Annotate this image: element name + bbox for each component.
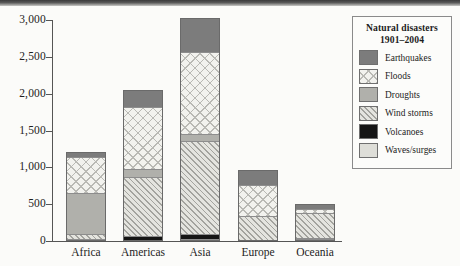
bar-segment-wind-storms bbox=[124, 177, 162, 236]
legend-entries: EarthquakesFloodsDroughtsWind stormsVolc… bbox=[359, 50, 445, 158]
legend-label: Droughts bbox=[385, 90, 420, 100]
legend-swatch-icon bbox=[359, 143, 378, 158]
bar-oceania[interactable] bbox=[295, 204, 335, 241]
y-axis-line bbox=[52, 20, 53, 242]
legend-label: Earthquakes bbox=[385, 53, 431, 63]
y-tick-label: 500 bbox=[28, 198, 46, 210]
y-tick bbox=[46, 241, 52, 242]
bar-segment-earthquakes bbox=[239, 171, 277, 185]
legend-label: Floods bbox=[385, 71, 411, 81]
y-tick-label: 1,500 bbox=[19, 125, 46, 137]
bar-segment-wind-storms bbox=[239, 216, 277, 240]
legend-swatch-icon bbox=[359, 87, 378, 102]
x-tick-label: Oceania bbox=[276, 246, 354, 258]
legend-item-droughts[interactable]: Droughts bbox=[359, 87, 445, 102]
bar-segment-droughts bbox=[124, 169, 162, 176]
bar-americas[interactable] bbox=[123, 90, 163, 241]
bar-segment-volcanoes bbox=[67, 239, 105, 240]
legend-label: Wind storms bbox=[385, 108, 433, 118]
bar-segment-waves-surges bbox=[181, 239, 219, 240]
y-tick bbox=[46, 20, 52, 21]
legend-swatch-icon bbox=[359, 50, 378, 65]
bar-asia[interactable] bbox=[180, 18, 220, 241]
bar-segment-volcanoes bbox=[124, 236, 162, 240]
bar-segment-floods bbox=[181, 52, 219, 135]
chart-page: 05001,0001,5002,0002,5003,000 AfricaAmer… bbox=[0, 6, 460, 266]
bar-segment-earthquakes bbox=[181, 19, 219, 52]
y-tick bbox=[46, 57, 52, 58]
bar-africa[interactable] bbox=[66, 152, 106, 241]
y-tick bbox=[46, 131, 52, 132]
bar-europe[interactable] bbox=[238, 170, 278, 241]
y-tick-label: 2,500 bbox=[19, 51, 46, 63]
y-tick bbox=[46, 204, 52, 205]
legend-label: Volcanoes bbox=[385, 127, 423, 137]
legend-title: Natural disasters 1901–2004 bbox=[359, 22, 445, 45]
x-axis-line bbox=[52, 241, 342, 242]
bar-segment-floods bbox=[239, 185, 277, 216]
bar-segment-wind-storms bbox=[296, 213, 334, 238]
legend-item-volcanoes[interactable]: Volcanoes bbox=[359, 124, 445, 139]
bar-segment-earthquakes bbox=[124, 91, 162, 108]
y-tick-label: 1,000 bbox=[19, 161, 46, 173]
bar-segment-wind-storms bbox=[181, 141, 219, 235]
bar-segment-floods bbox=[67, 157, 105, 192]
y-tick-label: 2,000 bbox=[19, 88, 46, 100]
bar-segment-floods bbox=[124, 107, 162, 169]
bar-segment-waves-surges bbox=[296, 239, 334, 240]
chart-legend: Natural disasters 1901–2004 EarthquakesF… bbox=[352, 16, 452, 169]
legend-item-floods[interactable]: Floods bbox=[359, 69, 445, 84]
y-axis-labels: 05001,0001,5002,0002,5003,000 bbox=[0, 20, 46, 242]
legend-item-waves-surges[interactable]: Waves/surges bbox=[359, 143, 445, 158]
y-tick-label: 3,000 bbox=[19, 14, 46, 26]
y-tick bbox=[46, 167, 52, 168]
legend-item-earthquakes[interactable]: Earthquakes bbox=[359, 50, 445, 65]
bar-segment-droughts bbox=[181, 134, 219, 141]
plot-area: AfricaAmericasAsiaEuropeOceania bbox=[52, 20, 342, 242]
legend-title-line1: Natural disasters bbox=[366, 22, 438, 33]
legend-label: Waves/surges bbox=[385, 145, 436, 155]
y-tick bbox=[46, 94, 52, 95]
legend-swatch-icon bbox=[359, 69, 378, 84]
bar-segment-droughts bbox=[67, 193, 105, 234]
legend-item-wind-storms[interactable]: Wind storms bbox=[359, 106, 445, 121]
legend-title-line2: 1901–2004 bbox=[380, 34, 424, 45]
legend-swatch-icon bbox=[359, 106, 378, 121]
legend-swatch-icon bbox=[359, 124, 378, 139]
